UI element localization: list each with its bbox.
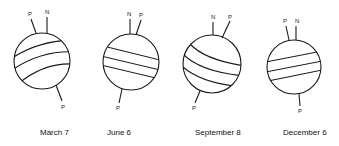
pole-label: N — [127, 11, 131, 17]
pole-label: P — [192, 105, 196, 111]
pole-label: P — [116, 105, 120, 111]
pole-label: P — [139, 12, 143, 18]
rotation-axis-top — [286, 26, 289, 40]
rotation-axis-bottom — [56, 85, 62, 101]
rotation-axis-bottom — [119, 89, 122, 103]
diagram-canvas: P N P N P P N P P — [0, 0, 339, 146]
rotation-axis-bottom — [195, 91, 200, 103]
caption-march: March 7 — [40, 128, 69, 137]
globe-outline — [103, 34, 159, 90]
pole-label: N — [211, 14, 215, 20]
pole-label: P — [283, 18, 287, 24]
globe-march: P N P — [12, 9, 75, 110]
pole-label: N — [45, 9, 49, 15]
pole-label: P — [28, 11, 32, 17]
pole-label: N — [295, 18, 299, 24]
caption-december: December 6 — [283, 128, 327, 137]
rotation-axis-top — [136, 20, 141, 35]
rotation-axis-bottom — [299, 94, 300, 106]
pole-label: P — [228, 14, 232, 20]
latitude-bands — [101, 46, 160, 79]
latitude-bands — [183, 44, 245, 86]
pole-label: P — [298, 108, 302, 114]
latitude-bands — [266, 51, 322, 81]
rotation-axis-top — [31, 19, 36, 33]
globe-december: P N P — [266, 18, 322, 114]
globe-september: N P P — [183, 14, 245, 111]
globe-june: N P P — [101, 11, 160, 111]
caption-june: June 6 — [107, 128, 131, 137]
pole-label: P — [61, 104, 65, 110]
rotation-axis-top — [222, 21, 230, 38]
caption-september: September 8 — [195, 128, 241, 137]
